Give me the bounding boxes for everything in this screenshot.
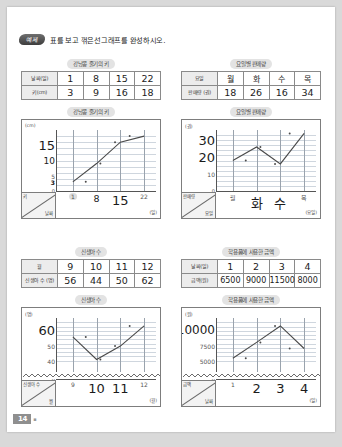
x-axis-title: 월 xyxy=(49,398,53,404)
row-header: 신생아 수 (명) xyxy=(22,274,58,288)
row-header: 날짜(일) xyxy=(22,72,58,86)
y-unit-label: (cm) xyxy=(25,123,36,128)
x-unit-label: (요일) xyxy=(305,209,317,215)
line-series-markers xyxy=(57,318,156,379)
table-cell: 6500 xyxy=(218,274,244,288)
graph-frame: (원) (일) 10000 7500 5000 0 1 2 3 4 xyxy=(181,307,321,407)
y-unit-label: (명) xyxy=(25,311,33,317)
y-tick-label: 10000 xyxy=(181,323,215,337)
x-tick-label: 8 xyxy=(94,193,100,204)
y-tick-label: 20 xyxy=(198,150,215,165)
table-cell: 50 xyxy=(109,274,135,288)
x-axis-title: 날짜 xyxy=(45,210,53,216)
table-cell: 44 xyxy=(83,274,109,288)
graph-caption: 요일별 판매량 xyxy=(230,107,272,117)
table-cell: 12 xyxy=(135,260,161,274)
y-axis-title: 신생아 수 xyxy=(23,383,40,388)
data-table: 요일 월 화 수 목 판매량 (권) 18 26 16 34 xyxy=(181,71,321,100)
x-tick-label: 3 xyxy=(276,381,284,396)
table-cell: 3 xyxy=(58,86,84,100)
y-tick-label: 30 xyxy=(198,133,215,148)
page-number-value: 14 xyxy=(13,414,31,424)
row-header: 요일 xyxy=(182,72,218,86)
plot-area: 30 20 10 0 월 화 수 목 xyxy=(216,130,316,192)
row-header: 월 xyxy=(22,260,58,274)
x-tick-label: 목 xyxy=(301,193,307,202)
y-tick-label: 60 xyxy=(38,322,55,337)
page-number: 14 ▪ xyxy=(13,414,37,424)
y-tick-label: 10 xyxy=(207,171,215,178)
y-tick-label: 40 xyxy=(47,358,55,365)
plot-area: 10000 7500 5000 0 1 2 3 4 xyxy=(216,318,316,380)
line-series-markers xyxy=(57,130,156,191)
table-row: 요일 월 화 수 목 xyxy=(182,72,321,86)
table-cell: 9 xyxy=(58,260,84,274)
table-cell: 15 xyxy=(109,72,135,86)
graph-frame: (명) (월) 60 50 40 0 9 10 11 12 xyxy=(21,307,161,407)
table-caption: 학용품에 사용한 금액 xyxy=(222,247,279,257)
table-cell: 8 xyxy=(83,72,109,86)
y-axis-title: 키 xyxy=(23,195,27,200)
table-cell: 4 xyxy=(295,260,321,274)
row-header: 판매량 (권) xyxy=(182,86,218,100)
line-series-markers xyxy=(217,130,316,191)
row-header: 키(cm) xyxy=(22,86,58,100)
data-table: 날짜(일) 1 2 3 4 금액(원) 6500 9000 11500 8000 xyxy=(181,259,321,288)
graph-caption: 신생아 수 xyxy=(75,295,107,305)
table-cell: 수 xyxy=(269,72,295,86)
instruction-row: 예제 표를 보고 꺾은선그래프를 완성하시오. xyxy=(19,34,165,45)
graph-frame: (cm) (일) 15 10 5 3 0 1 8 xyxy=(21,119,161,219)
x-tick-label: 화 xyxy=(251,193,263,212)
table-row: 날짜(일) 1 8 15 22 xyxy=(22,72,161,86)
x-unit-label: (월) xyxy=(149,397,157,403)
x-axis-title: 요일 xyxy=(205,210,213,216)
table-cell: 56 xyxy=(58,274,84,288)
y-tick-label: 5000 xyxy=(200,358,215,365)
x-unit-label: (일) xyxy=(149,209,157,215)
table-row: 키(cm) 3 9 16 18 xyxy=(22,86,161,100)
plot-area: 60 50 40 0 9 10 11 12 xyxy=(56,318,156,380)
table-cell: 9000 xyxy=(243,274,269,288)
table-caption: 강낭콩 줄기의 키 xyxy=(67,59,115,69)
graph-block-beanstalk: 강낭콩 줄기의 키 (cm) (일) 15 10 5 3 0 xyxy=(21,107,161,219)
table-row: 금액(원) 6500 9000 11500 8000 xyxy=(182,274,321,288)
table-block-beanstalk: 강낭콩 줄기의 키 날짜(일) 1 8 15 22 키(cm) 3 9 16 1… xyxy=(21,59,161,100)
x-tick-label: 10 xyxy=(88,381,105,396)
x-tick-label: 2 xyxy=(252,381,260,396)
table-cell: 16 xyxy=(269,86,295,100)
x-tick-label: 1 xyxy=(231,381,235,388)
x-tick-label: 4 xyxy=(300,381,308,396)
axis-break-wave xyxy=(183,372,320,379)
table-cell: 목 xyxy=(295,72,321,86)
data-table: 날짜(일) 1 8 15 22 키(cm) 3 9 16 18 xyxy=(21,71,161,100)
y-unit-label: (원) xyxy=(185,311,193,317)
axis-corner-box: 신생아 수 월 xyxy=(22,380,56,406)
table-cell: 18 xyxy=(135,86,161,100)
x-tick-label: 11 xyxy=(112,381,129,396)
page-number-dot: ▪ xyxy=(33,416,36,422)
table-cell: 화 xyxy=(243,72,269,86)
table-caption: 요일별 판매량 xyxy=(230,59,272,69)
y-unit-label: (권) xyxy=(185,123,193,129)
table-cell: 3 xyxy=(269,260,295,274)
table-row: 월 9 10 11 12 xyxy=(22,260,161,274)
x-tick-label: 월 xyxy=(230,193,236,202)
x-unit-label: (일) xyxy=(309,397,317,403)
y-axis-title: 판매량 xyxy=(183,195,195,200)
table-block-newborns: 신생아 수 월 9 10 11 12 신생아 수 (명) 56 44 50 62 xyxy=(21,247,161,288)
table-cell: 18 xyxy=(218,86,244,100)
x-tick-label: 15 xyxy=(112,193,129,208)
row-header: 금액(원) xyxy=(182,274,218,288)
y-tick-label: 7500 xyxy=(200,343,215,350)
y-tick-label: 15 xyxy=(38,138,55,153)
table-cell: 월 xyxy=(218,72,244,86)
table-cell: 2 xyxy=(243,260,269,274)
axis-corner-box: 금액 날짜 xyxy=(182,380,216,406)
line-series-markers xyxy=(217,318,316,379)
table-cell: 10 xyxy=(83,260,109,274)
graph-block-newborns: 신생아 수 (명) (월) 60 50 40 0 9 10 11 12 xyxy=(21,295,161,407)
x-tick-label: 1 xyxy=(69,193,77,200)
axis-break-wave xyxy=(23,372,160,379)
table-cell: 8000 xyxy=(295,274,321,288)
x-axis-title: 날짜 xyxy=(205,398,213,404)
